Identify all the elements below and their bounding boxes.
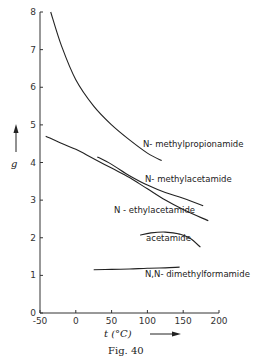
y-tick-label: 5 bbox=[30, 120, 36, 130]
y-tick-label: 4 bbox=[30, 158, 36, 168]
y-arrowhead-icon bbox=[14, 124, 19, 133]
y-tick-label: 3 bbox=[30, 195, 36, 205]
y-tick-label: 8 bbox=[30, 7, 36, 17]
y-tick-label: 1 bbox=[30, 270, 36, 280]
x-axis: -50050100150200 bbox=[33, 310, 228, 326]
curve-label-n-methylacetamide: N- methylacetamide bbox=[145, 174, 232, 184]
curve-label-n-methylpropionamide: N- methylpropionamide bbox=[143, 139, 243, 149]
y-axis-title-group: g bbox=[11, 124, 19, 169]
x-tick-label: 50 bbox=[106, 316, 118, 326]
figure-caption: Fig. 40 bbox=[108, 345, 144, 356]
x-tick-label: 150 bbox=[175, 316, 192, 326]
x-tick-label: -50 bbox=[33, 316, 48, 326]
y-axis-title: g bbox=[11, 158, 17, 169]
x-axis-title: t (°C) bbox=[104, 328, 132, 339]
y-tick-label: 6 bbox=[30, 82, 36, 92]
x-arrowhead-icon bbox=[172, 332, 181, 337]
y-axis: 012345678 bbox=[30, 7, 43, 318]
x-tick-label: 200 bbox=[210, 316, 227, 326]
x-axis-title-group: t (°C) bbox=[104, 328, 181, 339]
curve-labels: N- methylpropionamideN- methylacetamideN… bbox=[114, 139, 250, 279]
curve-label-n-ethylacetamide: N - ethylacetamide bbox=[114, 205, 195, 215]
y-tick-label: 7 bbox=[30, 45, 36, 55]
x-tick-label: 0 bbox=[73, 316, 79, 326]
y-tick-label: 2 bbox=[30, 233, 36, 243]
chart: 012345678 -50050100150200 N- methylpropi… bbox=[0, 0, 254, 357]
curve-label-n-n-dimethylformamide: N,N- dimethylformamide bbox=[145, 269, 250, 279]
x-tick-label: 100 bbox=[139, 316, 156, 326]
curve-label-acetamide: acetamide bbox=[146, 233, 191, 243]
